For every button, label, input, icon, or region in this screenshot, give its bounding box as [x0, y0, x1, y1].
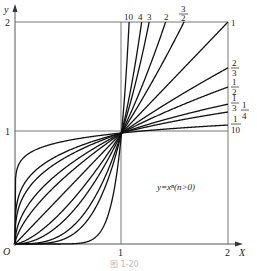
x-axis-arrow-icon: [235, 242, 243, 247]
origin-label: O: [3, 246, 10, 257]
label-n1-10: 1 10: [231, 114, 241, 135]
label-n3: 3: [147, 12, 152, 22]
svg-text:1: 1: [233, 114, 238, 124]
label-n10: 10: [124, 12, 134, 22]
label-n1-4: 1 4: [241, 100, 249, 121]
y-tick-1: 1: [5, 126, 10, 137]
x-tick-1: 1: [118, 247, 123, 258]
label-n2-3: 2 3: [231, 58, 239, 78]
svg-text:1: 1: [232, 77, 237, 87]
svg-text:1: 1: [242, 100, 247, 110]
y-tick-2: 2: [5, 17, 10, 28]
curve-n-2: [15, 22, 166, 244]
curve-n-3: [15, 22, 149, 244]
x-tick-2: 2: [225, 247, 230, 258]
label-n4: 4: [138, 12, 143, 22]
label-n1: 1: [231, 18, 236, 28]
y-axis-label: y: [3, 4, 9, 15]
figure-caption: 图 1-20: [110, 260, 139, 269]
power-function-chart: y X O 2 1 1 2 10 4 3 2 3 2 1 2 3 1 2 1 3…: [0, 0, 257, 271]
curve-n-1-3: [15, 104, 228, 244]
svg-text:1: 1: [232, 93, 237, 103]
curve-n-2-3: [15, 68, 228, 244]
label-n1-3: 1 3: [231, 93, 239, 113]
curve-n-1-2: [15, 87, 228, 244]
svg-text:2: 2: [232, 58, 237, 68]
label-n3-2: 3 2: [179, 4, 188, 23]
svg-text:4: 4: [242, 111, 247, 121]
svg-text:2: 2: [181, 13, 186, 23]
y-axis-arrow-icon: [13, 4, 18, 12]
curves: [15, 22, 228, 244]
curve-n-3-2: [15, 22, 184, 244]
svg-text:10: 10: [231, 125, 241, 135]
x-axis-label: X: [238, 247, 246, 258]
label-n2: 2: [164, 12, 169, 22]
formula-annotation: y=xⁿ(n>0): [156, 182, 195, 192]
svg-text:3: 3: [232, 103, 237, 113]
